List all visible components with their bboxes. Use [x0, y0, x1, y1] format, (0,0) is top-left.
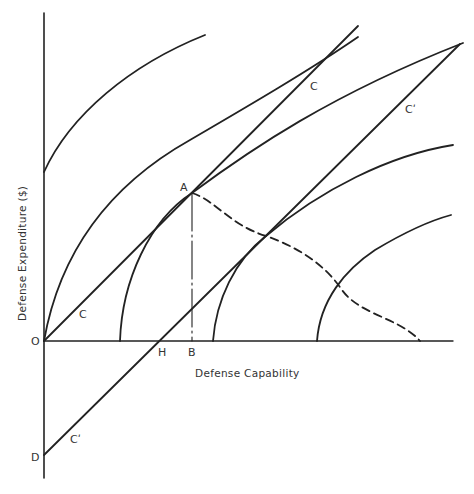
defense-diagram: O D H B A C C Cʹ Cʹ Defense Capability D… — [0, 0, 474, 494]
y-axis-label: Defense Expenditure ($) — [16, 186, 28, 321]
curve-5 — [317, 215, 451, 341]
line-c — [44, 26, 358, 341]
line-c-prime — [44, 44, 460, 455]
curve-1 — [44, 35, 205, 172]
label-d: D — [31, 451, 39, 464]
label-o: O — [31, 335, 40, 348]
label-c-prime-lower: Cʹ — [70, 433, 81, 446]
label-h: H — [158, 346, 166, 359]
label-b: B — [188, 346, 196, 359]
x-axis-label: Defense Capability — [195, 367, 300, 379]
dashed-path — [192, 193, 420, 341]
label-a: A — [180, 181, 188, 194]
label-c-prime-upper: Cʹ — [405, 103, 416, 116]
label-c-lower: C — [79, 308, 87, 321]
label-c-upper: C — [310, 80, 318, 93]
curve-3 — [120, 43, 463, 341]
curve-4 — [213, 145, 453, 341]
